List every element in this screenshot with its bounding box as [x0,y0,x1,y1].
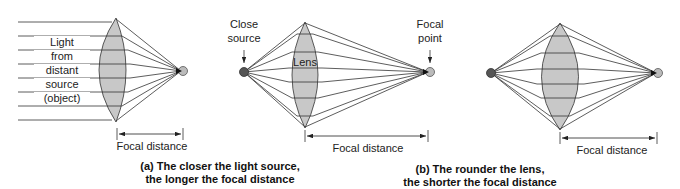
source-dot-b [240,68,249,77]
caption-b: (b) The rounder the lens, the shorter th… [385,163,575,189]
ray-label-from: from [34,50,90,62]
lens-diagram [0,0,680,189]
focal-distance-label-b: Focal distance [328,141,408,155]
source-dot-c [487,69,496,78]
panel-b-close-source [240,22,435,142]
ray-label-object: (object) [34,92,90,104]
ray-label-light: Light [34,36,90,48]
ray-label-source: source [34,78,90,90]
lens-label: Lens [290,55,320,69]
ray-label-distant: distant [34,64,90,76]
close-source-label: Close source [224,17,264,45]
focal-distance-label-c: Focal distance [572,143,652,157]
lens-b [292,22,318,128]
focal-distance-label-a: Focal distance [112,139,192,153]
caption-a: (a) The closer the light source, the lon… [130,160,310,186]
panel-c-rounder-lens [487,23,663,144]
focal-point-label: Focal point [412,17,448,45]
